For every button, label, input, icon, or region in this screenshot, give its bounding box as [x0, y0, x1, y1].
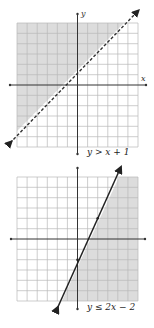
graph-1 [0, 0, 154, 164]
x-axis-letter: x [141, 74, 146, 83]
inequality-label-2: y ≤ 2x − 2 [87, 302, 135, 312]
inequality-label-1: y > x + 1 [87, 147, 129, 157]
y-axis-letter: y [81, 9, 86, 18]
